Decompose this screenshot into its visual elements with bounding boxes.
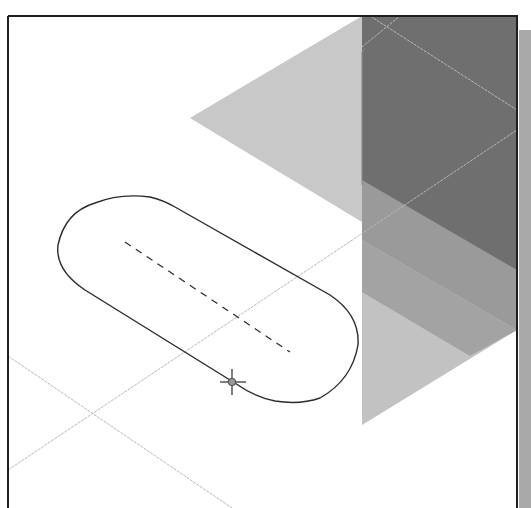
viewport-side-strip	[519, 30, 531, 508]
graphics-viewport[interactable]	[0, 0, 531, 508]
sketch-canvas[interactable]	[0, 0, 531, 508]
